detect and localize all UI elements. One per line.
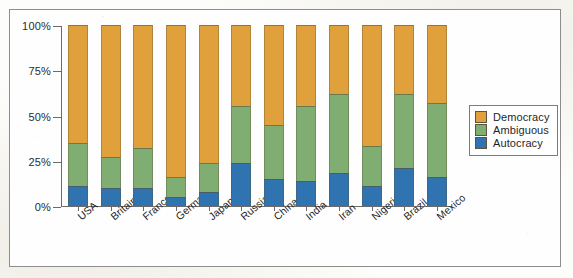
bar-segment[interactable] [394,25,414,94]
y-axis-label: 100% [22,20,51,32]
bar-segment[interactable] [199,25,219,163]
bar-column[interactable] [199,26,219,206]
legend-item[interactable]: Democracy [475,111,550,123]
y-axis-label: 0% [35,201,51,213]
bar-segment[interactable] [362,186,382,206]
chart-legend: DemocracyAmbiguousAutocracy [469,105,558,156]
bar-segment[interactable] [362,146,382,186]
bar-segment[interactable] [329,25,349,94]
chart-figure-frame: 0%25%50%75%100%USABritainFranceGermanyJa… [9,9,561,267]
plot-area: 0%25%50%75%100%USABritainFranceGermanyJa… [61,26,452,207]
bar-segment[interactable] [231,106,251,162]
bar-column[interactable] [166,26,186,206]
legend-item[interactable]: Autocracy [475,137,550,149]
bar-segment[interactable] [296,106,316,180]
bar-segment[interactable] [427,177,447,206]
legend-label: Democracy [493,111,550,123]
bar-segment[interactable] [133,148,153,188]
bar-segment[interactable] [362,25,382,146]
bar-column[interactable] [231,26,251,206]
bar-column[interactable] [264,26,284,206]
y-axis-tick [53,207,61,208]
bar-segment[interactable] [199,163,219,192]
legend-item[interactable]: Ambiguous [475,124,550,136]
bar-segment[interactable] [101,25,121,157]
y-axis-tick [53,117,61,118]
bar-segment[interactable] [264,25,284,125]
bar-segment[interactable] [296,181,316,206]
bar-segment[interactable] [427,103,447,177]
bar-segment[interactable] [68,143,88,186]
legend-swatch-icon [475,111,487,123]
bar-column[interactable] [329,26,349,206]
bar-segment[interactable] [296,25,316,106]
bar-segment[interactable] [68,25,88,143]
y-axis-label: 50% [28,111,51,123]
bar-column[interactable] [296,26,316,206]
bar-segment[interactable] [394,94,414,168]
legend-label: Autocracy [493,137,543,149]
bar-column[interactable] [362,26,382,206]
scanned-page-background: 0%25%50%75%100%USABritainFranceGermanyJa… [0,0,573,278]
legend-swatch-icon [475,124,487,136]
bar-column[interactable] [427,26,447,206]
bar-segment[interactable] [264,125,284,179]
bar-segment[interactable] [231,25,251,106]
y-axis-label: 25% [28,156,51,168]
bar-segment[interactable] [329,94,349,174]
bar-segment[interactable] [427,25,447,103]
bar-segment[interactable] [166,25,186,177]
bar-column[interactable] [394,26,414,206]
bar-segment[interactable] [231,163,251,206]
bar-segment[interactable] [264,179,284,206]
legend-label: Ambiguous [493,124,549,136]
bar-column[interactable] [68,26,88,206]
bar-segment[interactable] [133,25,153,148]
bar-segment[interactable] [329,173,349,206]
y-axis-tick [53,162,61,163]
bar-segment[interactable] [166,177,186,197]
y-axis-tick [53,71,61,72]
bar-segment[interactable] [101,157,121,188]
bar-column[interactable] [101,26,121,206]
bar-column[interactable] [133,26,153,206]
bar-segment[interactable] [394,168,414,206]
y-axis-label: 75% [28,65,51,77]
y-axis-tick [53,26,61,27]
legend-swatch-icon [475,137,487,149]
